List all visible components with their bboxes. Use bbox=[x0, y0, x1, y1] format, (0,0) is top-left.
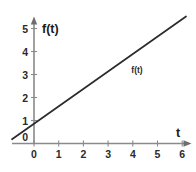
y-tick-label-4: 4 bbox=[22, 46, 28, 58]
x-tick-label-3: 3 bbox=[105, 148, 111, 160]
x-tick-label-2: 2 bbox=[80, 148, 86, 160]
chart-background bbox=[0, 0, 196, 172]
y-tick-label-1: 1 bbox=[22, 115, 28, 127]
x-tick-label-5: 5 bbox=[155, 148, 161, 160]
x-tick-label-1: 1 bbox=[56, 148, 62, 160]
curve-label-ft: f(t) bbox=[131, 65, 142, 75]
y-axis-label: f(t) bbox=[42, 22, 59, 36]
chart-figure: 0 1 2 3 4 5 0 1 2 3 4 5 6 f(t) t f(t) bbox=[0, 0, 196, 172]
y-tick-label-0: 0 bbox=[22, 131, 28, 143]
line-chart-svg: 0 1 2 3 4 5 0 1 2 3 4 5 6 f(t) t f(t) bbox=[0, 0, 196, 172]
x-tick-label-0: 0 bbox=[31, 148, 37, 160]
y-tick-label-2: 2 bbox=[22, 92, 28, 104]
x-tick-label-6: 6 bbox=[179, 148, 185, 160]
x-tick-label-4: 4 bbox=[130, 148, 136, 160]
y-tick-label-3: 3 bbox=[22, 69, 28, 81]
y-tick-label-5: 5 bbox=[22, 23, 28, 35]
